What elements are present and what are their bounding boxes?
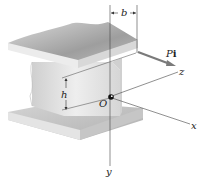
b-dimension: b — [111, 7, 136, 18]
origin-point — [108, 94, 114, 100]
b-label: b — [121, 7, 127, 18]
z-axis-label: z — [178, 66, 185, 77]
force-label: Pi — [165, 48, 177, 59]
i-beam-diagram: b h Pi z x y O — [0, 0, 203, 183]
y-axis-label: y — [105, 166, 112, 177]
h-label: h — [61, 89, 67, 100]
origin-label: O — [99, 98, 107, 109]
x-axis-label: x — [191, 120, 197, 131]
force-i-label: i — [173, 48, 177, 59]
force-arrow-pi: Pi — [138, 48, 177, 66]
